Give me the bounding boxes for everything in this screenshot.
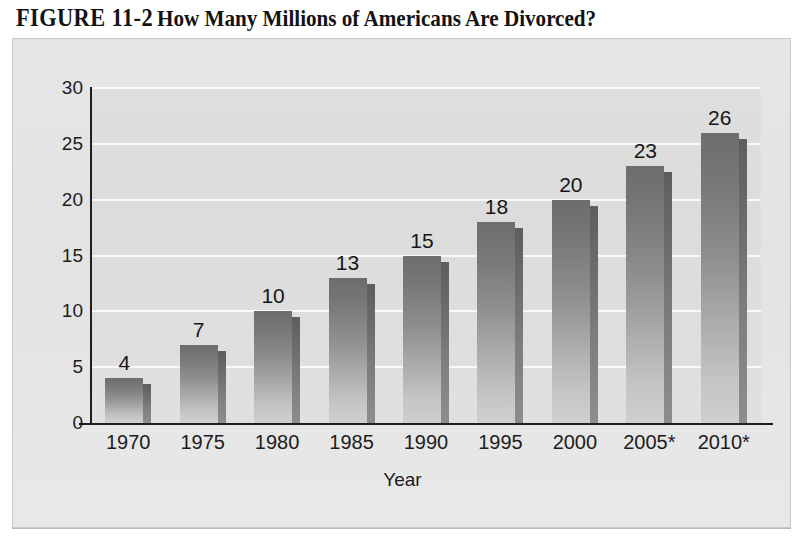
y-tick-label: 20 [23, 189, 83, 211]
x-axis-title: Year [13, 469, 792, 491]
bar-shadow [143, 384, 151, 423]
figure-title: FIGURE 11-2 How Many Millions of America… [16, 0, 786, 36]
bar[interactable]: 20 [552, 88, 590, 423]
bar-body [254, 311, 292, 423]
y-axis-line [90, 87, 92, 425]
bar[interactable]: 4 [105, 88, 143, 423]
y-axis-tick-labels: 051015202530 [19, 88, 83, 423]
bar-shadow [739, 139, 747, 423]
bar-value-label: 4 [91, 351, 157, 375]
bar-body [552, 200, 590, 423]
bar-value-label: 7 [166, 318, 232, 342]
bar-value-label: 20 [538, 173, 604, 197]
bar-shadow [664, 172, 672, 423]
bar-body [626, 166, 664, 423]
bar-body [403, 256, 441, 424]
figure-caption: How Many Millions of Americans Are Divor… [157, 5, 596, 32]
bar[interactable]: 23 [626, 88, 664, 423]
figure-panel: 4710131518202326 051015202530 1970197519… [12, 38, 791, 528]
x-axis-line [79, 423, 773, 425]
bar[interactable]: 7 [180, 88, 218, 423]
plot-area: 4710131518202326 [91, 88, 761, 423]
bar-body [701, 133, 739, 423]
bar-shadow [590, 206, 598, 423]
bar[interactable]: 10 [254, 88, 292, 423]
y-tick-label: 10 [23, 300, 83, 322]
y-tick-label: 5 [23, 356, 83, 378]
y-tick-label: 25 [23, 133, 83, 155]
bar-body [329, 278, 367, 423]
y-tick-label: 15 [23, 245, 83, 267]
bar-value-label: 15 [389, 229, 455, 253]
y-tick-label: 0 [23, 412, 83, 434]
y-tick-label: 30 [23, 77, 83, 99]
x-tick-label: 2010* [679, 431, 769, 454]
bar-value-label: 26 [687, 106, 753, 130]
bar-value-label: 13 [315, 251, 381, 275]
bar[interactable]: 15 [403, 88, 441, 423]
bar-shadow [218, 351, 226, 423]
x-axis-tick-labels: 19701975198019851990199520002005*2010* [91, 431, 761, 465]
bar[interactable]: 13 [329, 88, 367, 423]
bar-shadow [515, 228, 523, 423]
bar-shadow [367, 284, 375, 423]
bar-body [105, 378, 143, 423]
bar-value-label: 10 [240, 284, 306, 308]
bar[interactable]: 26 [701, 88, 739, 423]
bar-value-label: 23 [612, 139, 678, 163]
bar-body [477, 222, 515, 423]
bar-shadow [441, 262, 449, 424]
bar-value-label: 18 [463, 195, 529, 219]
bar-body [180, 345, 218, 423]
bar[interactable]: 18 [477, 88, 515, 423]
bar-shadow [292, 317, 300, 423]
figure-number: FIGURE 11-2 [16, 3, 153, 33]
